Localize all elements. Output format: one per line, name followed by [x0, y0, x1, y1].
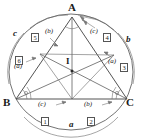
region-5-number-box: 5 [31, 27, 39, 43]
region-1-number-box: 1 [41, 111, 49, 127]
region-5-paren: (b) [45, 28, 53, 35]
chord-feet-top [40, 54, 114, 55]
leader-arrowhead-6 [32, 57, 36, 60]
leader-arrowhead-2 [108, 101, 112, 104]
incenter-label: I [66, 57, 70, 66]
region-2-number: 2 [87, 117, 95, 126]
region-1-paren: (c) [38, 101, 46, 108]
region-2-paren: (b) [84, 101, 92, 108]
region-5-number: 5 [31, 33, 39, 42]
vertex-label-a: A [68, 2, 76, 13]
leader-arrowhead-4 [83, 20, 87, 25]
region-4-number: 4 [103, 33, 111, 42]
region-4-paren: (c) [90, 28, 98, 35]
region-3-number-box: 3 [120, 57, 128, 73]
region-3-paren: (a) [108, 58, 116, 65]
leader-arrowhead-5 [54, 43, 58, 46]
region-1-number: 1 [41, 117, 49, 126]
region-6-number: 6 [15, 56, 23, 65]
side-label-c: c [13, 29, 17, 38]
region-2-number-box: 2 [87, 111, 95, 127]
vertex-label-b: B [3, 97, 10, 108]
incenter-point [71, 70, 74, 73]
side-label-a: a [69, 120, 74, 129]
geometry-figure: A B C I c b a (c) 1 (b) 2 (a) 3 (c) 4 (b… [0, 0, 145, 139]
region-4-number-box: 4 [103, 27, 111, 43]
region-6-number-box: 6 [15, 50, 23, 66]
leader-arrowhead-1 [62, 101, 66, 104]
region-3-number: 3 [120, 63, 128, 72]
side-label-b: b [126, 35, 131, 44]
leader-arrowhead-3 [104, 52, 108, 55]
vertex-label-c: C [126, 97, 134, 108]
